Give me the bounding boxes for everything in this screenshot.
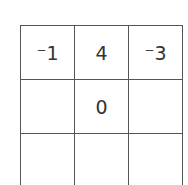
grid-cell [129, 134, 183, 185]
grid-cell [129, 80, 183, 134]
grid-cell: 4 [75, 26, 129, 80]
grid-row [21, 134, 183, 185]
grid-row: ⁻1 4 ⁻3 [21, 26, 183, 80]
grid-cell: ⁻3 [129, 26, 183, 80]
grid-cell: 0 [75, 80, 129, 134]
grid-cell [75, 134, 129, 185]
grid-row: 0 [21, 80, 183, 134]
grid-cell: ⁻1 [21, 26, 75, 80]
grid-cell [21, 134, 75, 185]
number-grid: ⁻1 4 ⁻3 0 [20, 25, 183, 185]
grid-cell [21, 80, 75, 134]
